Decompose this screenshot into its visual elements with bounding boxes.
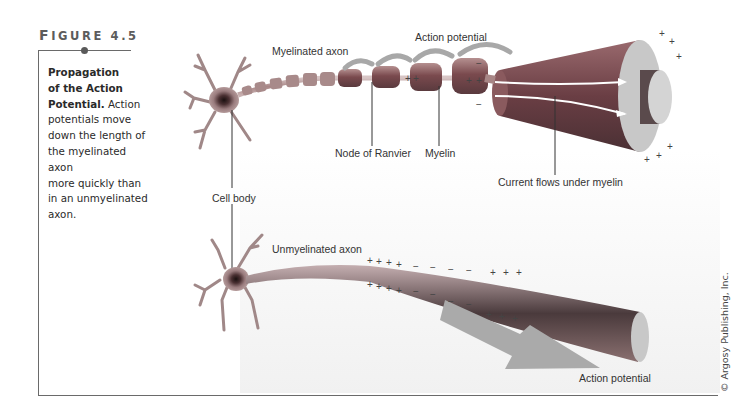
svg-text:+: + bbox=[386, 283, 392, 294]
svg-text:+: + bbox=[676, 51, 682, 62]
label-action-potential-bottom: Action potential bbox=[579, 372, 651, 384]
svg-text:+: + bbox=[376, 281, 382, 292]
cell-body-bottom bbox=[223, 267, 249, 291]
svg-text:+: + bbox=[490, 267, 496, 278]
svg-text:+: + bbox=[656, 150, 662, 161]
svg-text:−: − bbox=[448, 296, 454, 307]
label-myelinated-axon: Myelinated axon bbox=[272, 45, 349, 57]
svg-text:+: + bbox=[669, 36, 675, 47]
svg-text:+: + bbox=[644, 154, 650, 165]
svg-text:+: + bbox=[503, 267, 509, 278]
svg-text:+: + bbox=[516, 267, 522, 278]
svg-text:−: − bbox=[430, 262, 436, 273]
svg-text:−: − bbox=[413, 286, 419, 297]
svg-text:+: + bbox=[667, 141, 673, 152]
label-action-potential-top: Action potential bbox=[415, 31, 487, 43]
svg-text:−: − bbox=[430, 289, 436, 300]
svg-text:−: − bbox=[466, 265, 472, 276]
svg-text:−: − bbox=[448, 264, 454, 275]
svg-text:+: + bbox=[659, 28, 665, 39]
svg-text:+: + bbox=[486, 309, 492, 320]
svg-text:+: + bbox=[512, 313, 518, 324]
label-current-flows: Current flows under myelin bbox=[498, 176, 623, 188]
svg-text:+: + bbox=[376, 256, 382, 267]
svg-text:+: + bbox=[386, 257, 392, 268]
svg-text:+: + bbox=[367, 255, 373, 266]
neuron-diagram: − − + + + + + + + + + + Myelinated axon … bbox=[0, 0, 756, 403]
label-node-of-ranvier: Node of Ranvier bbox=[335, 147, 411, 159]
svg-text:+: + bbox=[396, 285, 402, 296]
svg-text:+: + bbox=[396, 259, 402, 270]
label-myelin: Myelin bbox=[425, 147, 456, 159]
label-cell-body: Cell body bbox=[212, 192, 257, 204]
copyright-credit: © Argosy Publishing, Inc. bbox=[719, 272, 730, 392]
svg-text:+: + bbox=[413, 73, 419, 84]
svg-text:+: + bbox=[476, 75, 482, 86]
svg-text:−: − bbox=[476, 99, 482, 110]
label-unmyelinated-axon: Unmyelinated axon bbox=[272, 243, 362, 255]
svg-text:+: + bbox=[466, 75, 472, 86]
svg-text:+: + bbox=[499, 311, 505, 322]
svg-text:−: − bbox=[413, 261, 419, 272]
axon-end-cap bbox=[631, 312, 649, 362]
svg-text:+: + bbox=[405, 73, 411, 84]
myelinated-cone bbox=[485, 40, 672, 152]
svg-text:−: − bbox=[476, 58, 482, 69]
svg-text:+: + bbox=[367, 279, 373, 290]
svg-text:−: − bbox=[466, 299, 472, 310]
cell-body-top bbox=[209, 87, 239, 113]
